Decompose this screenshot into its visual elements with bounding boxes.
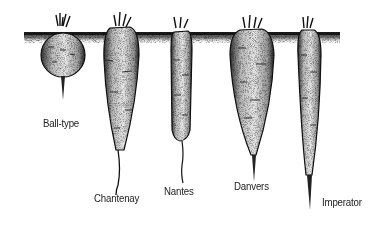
carrot-types-illustration: Ball-type Chantenay Nantes Danvers Imper… <box>0 0 384 226</box>
carrot-imperator <box>298 16 321 210</box>
carrot-danvers <box>230 15 274 182</box>
carrot-chantenay <box>104 12 139 195</box>
label-chantenay: Chantenay <box>94 192 139 204</box>
carrot-nantes <box>171 17 192 183</box>
label-ball-type: Ball-type <box>43 117 79 129</box>
label-imperator: Imperator <box>322 196 362 208</box>
label-nantes: Nantes <box>164 185 194 197</box>
carrot-ball-type <box>41 13 85 100</box>
label-danvers: Danvers <box>234 180 269 192</box>
